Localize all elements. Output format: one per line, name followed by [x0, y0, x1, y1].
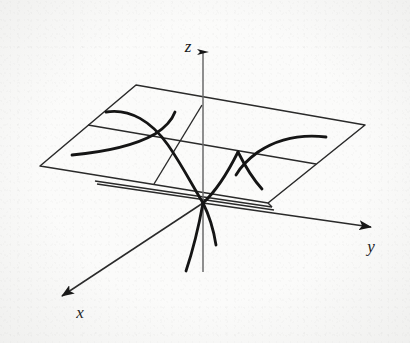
x-axis-label: x — [75, 303, 84, 322]
plane-gridline-horizontal — [88, 125, 316, 164]
y-axis-line — [203, 203, 371, 227]
figure-container: z y x — [0, 0, 410, 343]
front-edge-line-upper — [95, 181, 272, 207]
x-axis-line — [62, 203, 203, 296]
curve-descending-right — [203, 203, 216, 245]
front-edge-line-lower — [97, 184, 274, 210]
z-axis-label: z — [184, 37, 192, 56]
y-axis-label: y — [365, 237, 375, 256]
plane-gridline-vertical — [154, 105, 202, 184]
front-edge-double-line — [95, 181, 274, 210]
curve-right-hyperbola-branch-upper — [236, 136, 326, 175]
axes-group — [62, 52, 371, 296]
coordinate-diagram-canvas: z y x — [0, 0, 410, 343]
